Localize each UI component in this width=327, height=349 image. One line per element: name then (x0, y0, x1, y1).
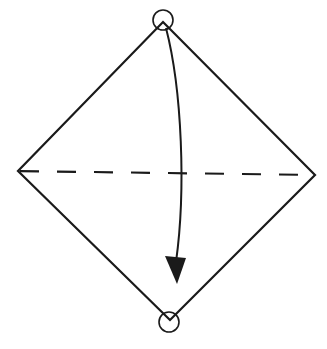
diagram-svg (0, 0, 327, 349)
fold-diagram (0, 0, 327, 349)
background (0, 0, 327, 349)
